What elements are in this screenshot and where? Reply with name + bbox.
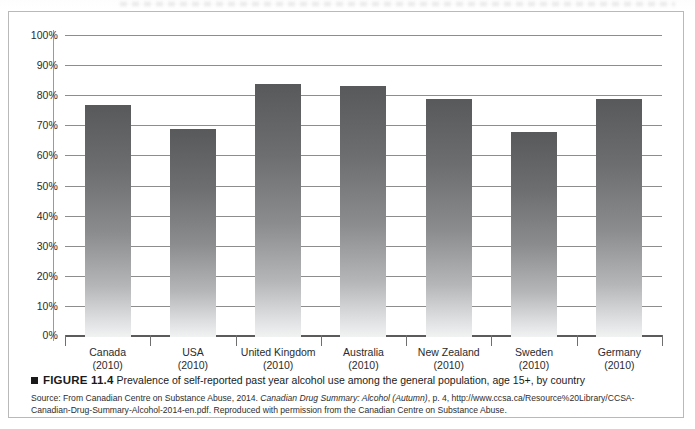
source-text: , p. 4, http://www.ccsa.ca/Resource%20Li…	[428, 393, 635, 403]
category-year: (2010)	[236, 359, 321, 372]
source-text: Source: From Canadian Centre on Substanc…	[31, 393, 260, 403]
x-axis-label-usa: USA(2010)	[150, 346, 235, 372]
x-axis-label-australia: Australia(2010)	[321, 346, 406, 372]
y-axis-tick-label: 60%	[37, 149, 58, 161]
y-axis-tick-label: 30%	[37, 240, 58, 252]
bar-slot	[406, 36, 491, 337]
category-country: Canada	[65, 346, 150, 359]
bar-slot	[150, 36, 235, 337]
bar-chart: 0%10%20%30%40%50%60%70%80%90%100% Canada…	[9, 12, 685, 372]
bar-canada	[85, 105, 131, 337]
x-axis-label-germany: Germany(2010)	[577, 346, 662, 372]
bar-new-zealand	[426, 99, 472, 337]
bar-slot	[236, 36, 321, 337]
category-country: USA	[150, 346, 235, 359]
category-year: (2010)	[577, 359, 662, 372]
bar-slot	[321, 36, 406, 337]
category-country: New Zealand	[406, 346, 491, 359]
bar-germany	[596, 99, 642, 337]
figure-number: FIGURE 11.4	[43, 374, 114, 386]
source-line: Source: From Canadian Centre on Substanc…	[31, 393, 676, 405]
category-country: Germany	[577, 346, 662, 359]
category-tick	[662, 335, 663, 346]
x-axis-label-new-zealand: New Zealand(2010)	[406, 346, 491, 372]
source-title-italic: Canadian Drug Summary: Alcohol (Autumn)	[260, 393, 427, 403]
bar-series	[65, 36, 662, 337]
source-text: Canadian-Drug-Summary-Alcohol-2014-en.pd…	[31, 405, 507, 415]
bar-australia	[340, 86, 386, 337]
bar-usa	[170, 129, 216, 337]
caption-bullet-icon	[31, 377, 38, 384]
category-year: (2010)	[406, 359, 491, 372]
x-axis-label-united-kingdom: United Kingdom(2010)	[236, 346, 321, 372]
bar-slot	[577, 36, 662, 337]
source-line: Canadian-Drug-Summary-Alcohol-2014-en.pd…	[31, 405, 676, 417]
y-axis-tick-label: 90%	[37, 59, 58, 71]
bar-sweden	[511, 132, 557, 337]
category-year: (2010)	[491, 359, 576, 372]
y-axis-tick-label: 20%	[37, 270, 58, 282]
y-axis-tick-label: 100%	[31, 29, 58, 41]
figure-source: Source: From Canadian Centre on Substanc…	[31, 393, 676, 416]
category-year: (2010)	[65, 359, 150, 372]
scan-artifact-strip	[0, 0, 695, 10]
category-country: Sweden	[491, 346, 576, 359]
figure-caption: FIGURE 11.4 Prevalence of self-reported …	[31, 373, 671, 387]
bar-slot	[65, 36, 150, 337]
x-axis-label-sweden: Sweden(2010)	[491, 346, 576, 372]
figure-frame: 0%10%20%30%40%50%60%70%80%90%100% Canada…	[8, 11, 684, 418]
y-axis-tick-label: 50%	[37, 180, 58, 192]
bar-united-kingdom	[255, 84, 301, 337]
bar-slot	[491, 36, 576, 337]
category-year: (2010)	[321, 359, 406, 372]
y-axis-tick-label: 0%	[43, 329, 58, 341]
category-country: United Kingdom	[236, 346, 321, 359]
plot-area: 0%10%20%30%40%50%60%70%80%90%100%	[65, 36, 662, 337]
figure-caption-body: Prevalence of self-reported past year al…	[117, 374, 585, 386]
category-year: (2010)	[150, 359, 235, 372]
x-axis-labels: Canada(2010)USA(2010)United Kingdom(2010…	[65, 346, 662, 372]
y-axis-tick-label: 70%	[37, 119, 58, 131]
x-axis-label-canada: Canada(2010)	[65, 346, 150, 372]
y-axis-tick-label: 10%	[37, 300, 58, 312]
y-axis-tick-label: 40%	[37, 210, 58, 222]
y-axis-tick-label: 80%	[37, 89, 58, 101]
category-country: Australia	[321, 346, 406, 359]
